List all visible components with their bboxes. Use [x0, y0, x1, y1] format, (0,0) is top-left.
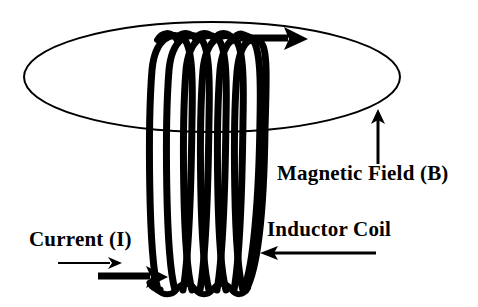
- arrow-right-thin-icon: [58, 257, 122, 269]
- magnetic-field-label: Magnetic Field (B): [277, 163, 449, 184]
- arrow-left-icon: [260, 246, 376, 260]
- diagram-canvas: Magnetic Field (B) Inductor Coil Current…: [0, 0, 478, 307]
- inductor-coil-label: Inductor Coil: [267, 219, 391, 240]
- arrow-up-icon: [371, 109, 385, 164]
- current-label: Current (I): [29, 229, 132, 250]
- inductor-diagram-svg: [0, 0, 478, 307]
- solenoid-coil-icon: [150, 33, 267, 294]
- coil-top-arrow-icon: [240, 27, 308, 50]
